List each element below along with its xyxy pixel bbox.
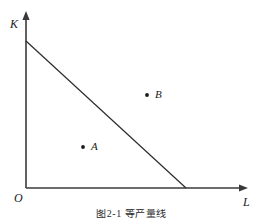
vertical-axis-arrowhead [22,11,29,20]
figure-container: K L O A B 图2-1 等产量线 [0,0,263,220]
origin-label: O [14,192,23,204]
data-point-a [81,145,85,149]
figure-caption: 图2-1 等产量线 [0,209,263,219]
point-label-b: B [155,89,162,100]
point-label-a: A [91,141,98,152]
figure-drawing [0,0,263,220]
constraint-line [26,41,186,188]
horizontal-axis-label: L [243,196,250,208]
vertical-axis-label: K [10,18,18,30]
horizontal-axis-arrowhead [239,184,248,191]
data-point-b [145,93,149,97]
